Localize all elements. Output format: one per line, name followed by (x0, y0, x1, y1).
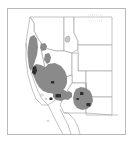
distribution-map-figure (0, 0, 134, 143)
state-outline-wyoming (78, 45, 112, 71)
range-core-tucson (87, 103, 91, 106)
distribution-region-nevada (65, 36, 70, 42)
range-core-central-valley-spot (51, 81, 54, 83)
island-outline-offshore-lower (47, 120, 49, 121)
range-core-los-angeles (56, 94, 62, 98)
range-core-arizona-spot (77, 98, 79, 100)
range-core-phoenix (80, 92, 83, 95)
range-core-san-diego (50, 98, 53, 101)
map-canvas (8, 9, 125, 134)
map-plot-frame (7, 8, 126, 135)
